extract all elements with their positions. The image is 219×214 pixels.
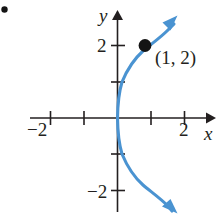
y-tick-label-pos2: 2 [97,35,107,56]
x-tick-label-neg2: −2 [27,119,47,140]
curve-upper-arrowhead-icon [163,16,178,31]
y-axis-label: y [97,5,108,26]
data-point-marker [139,39,152,52]
x-axis-arrowhead-icon [206,113,216,124]
y-axis-arrowhead-icon [112,10,123,20]
y-tick-label-neg2: −2 [87,181,107,202]
point-annotation-label: (1, 2) [155,47,196,69]
graph-canvas: −2 2 2 −2 x y (1, 2) [0,0,219,214]
x-axis-label: x [203,123,213,144]
x-tick-label-pos2: 2 [179,119,189,140]
bullet-point-icon [1,6,7,12]
